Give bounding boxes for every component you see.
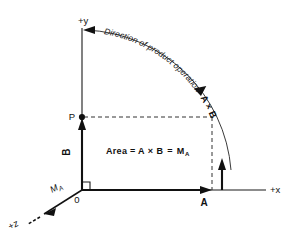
vector-b-label: B [61, 148, 72, 155]
moment-vector-label: MA [48, 180, 64, 196]
arc-annotation-text: Direction of product operationA × B [103, 26, 219, 120]
vector-cross-product-diagram: +y +x 0 +z MA B P A Area = A×B=MA [0, 0, 293, 239]
point-p-label: P [69, 111, 75, 122]
vector-a-arrowhead [200, 186, 212, 194]
area-equation: Area = A×B=MA [106, 146, 190, 157]
x-axis-label: +x [270, 184, 281, 195]
diagram-canvas: +y +x 0 +z MA B P A Area = A×B=MA [0, 0, 293, 239]
right-angle-marker [82, 182, 90, 190]
arc-terminal-arrowhead [218, 158, 226, 170]
arc-start-arrowhead [83, 26, 95, 34]
vector-a-label: A [200, 197, 207, 208]
origin-label: 0 [74, 194, 79, 205]
y-axis-label: +y [78, 15, 89, 26]
z-axis-dashed-extension [28, 217, 40, 224]
z-axis-label: +z [6, 217, 20, 232]
